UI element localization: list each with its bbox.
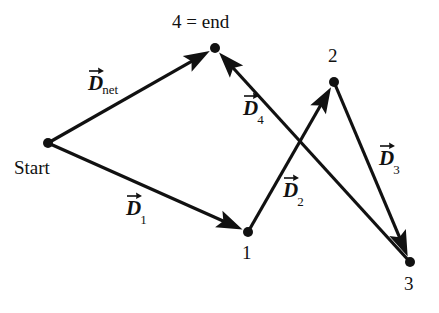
vector-subscript-d-1: 1 (140, 212, 147, 227)
vector-symbol-d-2: D (283, 180, 298, 201)
vector-label-d-net: Dnet (88, 73, 119, 94)
vector-subscript-d-net: net (102, 82, 118, 97)
vector-subscript-d-2: 2 (297, 194, 304, 209)
vector-symbol-d-3: D (379, 148, 394, 169)
node-label-n1: 1 (242, 243, 252, 262)
vector-symbol-d-4: D (243, 98, 258, 119)
node-dot-n1 (243, 227, 253, 237)
node-dot-n2 (329, 77, 339, 87)
vector-diagram-figure: Start1234 = end DnetD1D2D3D4 (0, 0, 439, 313)
vector-label-d-1: D1 (126, 198, 148, 222)
node-label-start: Start (14, 158, 50, 177)
node-dot-start (43, 138, 53, 148)
vector-symbol-d-net: D (88, 73, 103, 94)
vector-canvas (0, 0, 439, 313)
arrowhead-d-net (183, 51, 210, 72)
node-label-n3: 3 (404, 274, 414, 293)
vector-label-d-2: D2 (283, 180, 305, 204)
node-label-n2: 2 (328, 46, 338, 65)
vector-symbol-d-1: D (126, 198, 141, 219)
node-dot-n3 (405, 257, 415, 267)
arrowhead-d-2 (310, 87, 331, 114)
vector-subscript-d-4: 4 (257, 112, 264, 127)
vector-label-d-3: D3 (379, 148, 401, 172)
vector-label-d-4: D4 (243, 98, 265, 122)
vector-shaft-d-net (48, 61, 192, 143)
node-label-n4: 4 = end (172, 12, 229, 31)
vector-subscript-d-3: 3 (393, 162, 400, 177)
node-dot-n4 (210, 43, 220, 53)
